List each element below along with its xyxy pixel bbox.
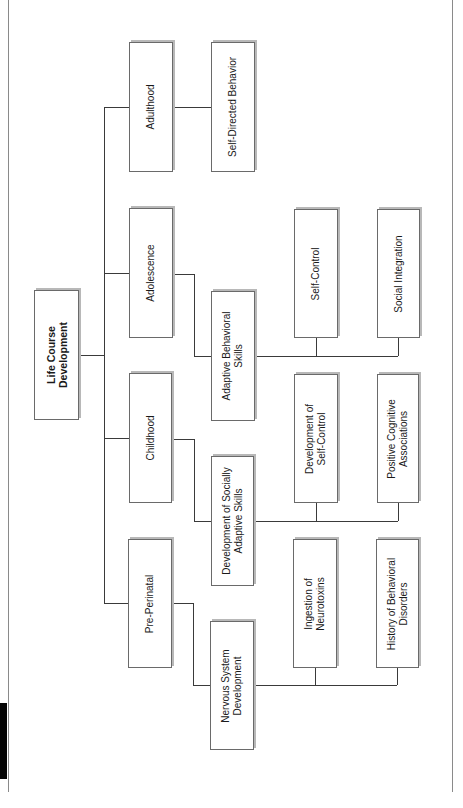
node-adolescence: Adolescence bbox=[129, 208, 173, 338]
node-label: Adulthood bbox=[145, 84, 157, 129]
connector-adaptive-in bbox=[194, 356, 211, 357]
node-self-directed-behavior: Self-Directed Behavior bbox=[211, 42, 255, 172]
node-label: Self-Control bbox=[310, 247, 322, 300]
connector-pre-perinatal-elbow bbox=[193, 603, 194, 685]
connector-socially-in bbox=[194, 521, 211, 522]
connector-adulthood bbox=[104, 107, 129, 108]
node-label: Childhood bbox=[145, 415, 157, 460]
connector-dev-self-control bbox=[316, 503, 317, 521]
connector-adulthood-self-directed bbox=[173, 107, 211, 108]
connector-childhood bbox=[104, 438, 129, 439]
page-edge-tab bbox=[0, 703, 7, 779]
connector-social-integration bbox=[398, 338, 399, 356]
connector-adolescence-out bbox=[173, 274, 194, 275]
node-label: History of Behavioral Disorders bbox=[386, 557, 410, 649]
node-self-control: Self-Control bbox=[294, 209, 338, 338]
node-label: Social Integration bbox=[393, 235, 405, 312]
node-ingestion-of-neurotoxins: Ingestion of Neurotoxins bbox=[293, 539, 337, 668]
node-label: Self-Directed Behavior bbox=[227, 57, 239, 157]
node-pre-perinatal: Pre-Perinatal bbox=[128, 539, 172, 668]
connector-root bbox=[79, 355, 104, 356]
connector-nervous-in bbox=[193, 685, 210, 686]
node-label: Adolescence bbox=[145, 244, 157, 301]
node-history-of-behavioral-disorders: History of Behavioral Disorders bbox=[376, 539, 419, 668]
node-adulthood: Adulthood bbox=[129, 42, 173, 172]
node-label: Life Course Development bbox=[45, 322, 69, 388]
node-childhood: Childhood bbox=[129, 373, 172, 503]
connector-trunk bbox=[104, 107, 105, 604]
node-development-of-socially-adaptive-skills: Development of Socially Adaptive Skills bbox=[211, 456, 254, 586]
node-adaptive-behavioral-skills: Adaptive Behavioral Skills bbox=[211, 291, 255, 421]
connector-history bbox=[397, 668, 398, 685]
connector-adolescence-elbow bbox=[194, 274, 195, 356]
node-label: Positive Cognitive Associations bbox=[386, 399, 410, 478]
node-positive-cognitive-associations: Positive Cognitive Associations bbox=[377, 374, 419, 503]
node-label: Nervous System Development bbox=[220, 649, 244, 722]
connector-ingestion bbox=[315, 668, 316, 685]
page-frame-right bbox=[452, 0, 453, 792]
node-label: Development of Socially Adaptive Skills bbox=[221, 467, 245, 574]
node-label: Pre-Perinatal bbox=[144, 574, 156, 632]
node-social-integration: Social Integration bbox=[377, 209, 420, 338]
connector-positive-cognitive bbox=[398, 503, 399, 521]
node-nervous-system-development: Nervous System Development bbox=[210, 621, 254, 750]
connector-childhood-elbow bbox=[194, 439, 195, 521]
connector-adolescence bbox=[104, 273, 129, 274]
node-label: Development of Self-Control bbox=[304, 403, 328, 473]
node-label: Adaptive Behavioral Skills bbox=[221, 312, 245, 401]
connector-adaptive-out bbox=[255, 356, 398, 357]
connector-pre-perinatal-out bbox=[172, 603, 193, 604]
connector-childhood-out bbox=[172, 439, 194, 440]
page-frame-left bbox=[8, 0, 9, 792]
connector-self-control bbox=[316, 338, 317, 356]
connector-nervous-out bbox=[254, 685, 397, 686]
node-label: Ingestion of Neurotoxins bbox=[303, 577, 327, 630]
connector-pre-perinatal bbox=[104, 603, 129, 604]
node-life-course-development: Life Course Development bbox=[34, 290, 79, 420]
node-development-of-self-control: Development of Self-Control bbox=[294, 374, 338, 503]
connector-socially-out bbox=[254, 521, 398, 522]
